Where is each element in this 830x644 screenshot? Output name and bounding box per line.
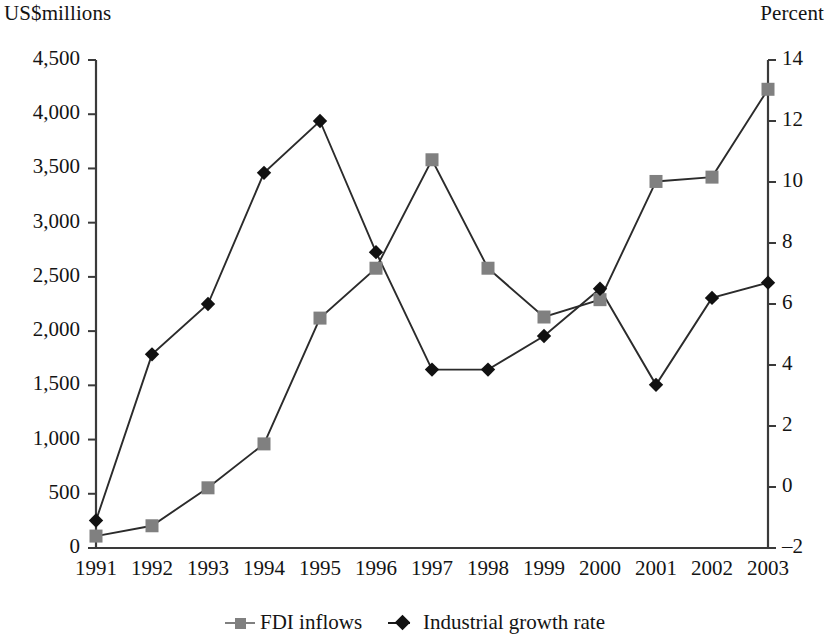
fdi-inflows-marker [90,530,103,543]
right-axis-tick-label: 10 [782,170,830,191]
right-axis-tick-label: 4 [782,353,830,374]
legend-marker-shape [395,614,411,630]
right-axis-tick-label: –2 [782,536,830,557]
right-axis-tick-label: 8 [782,231,830,252]
chart-figure: US$millions Percent 05001,0001,5002,0002… [0,0,830,644]
left-axis-tick-label: 4,500 [0,48,80,69]
left-axis-tick-label: 4,000 [0,102,80,123]
chart-legend: FDI inflowsIndustrial growth rate [0,612,830,633]
industrial-growth-rate-marker [761,275,775,289]
right-axis-tick-label: 0 [782,475,830,496]
x-axis-tick-label: 2003 [734,558,802,579]
fdi-inflows-marker [426,153,439,166]
left-axis-tick-label: 3,000 [0,211,80,232]
left-axis-tick-label: 1,000 [0,428,80,449]
left-axis-tick-label: 2,000 [0,319,80,340]
legend-item-fdi-inflows[interactable]: FDI inflows [225,612,362,633]
right-axis-tick-label: 12 [782,109,830,130]
fdi-inflows-marker [258,437,271,450]
left-axis-tick-label: 2,500 [0,265,80,286]
industrial-growth-rate-marker [425,362,439,376]
left-axis-tick-label: 0 [0,536,80,557]
fdi-inflows-marker [706,171,719,184]
industrial-growth-rate-marker [481,362,495,376]
fdi-inflows-marker [314,312,327,325]
fdi-inflows-marker [538,311,551,324]
right-axis-tick-label: 2 [782,414,830,435]
fdi-inflows-marker [650,175,663,188]
legend-diamond-marker-icon [388,614,418,632]
fdi-inflows-marker [202,481,215,494]
legend-item-label: FDI inflows [260,612,362,633]
left-axis-tick-label: 3,500 [0,156,80,177]
left-axis-tick-label: 1,500 [0,373,80,394]
legend-item-label: Industrial growth rate [423,612,605,633]
plot-area [0,0,830,644]
fdi-inflows-marker [482,262,495,275]
fdi-inflows-marker [370,262,383,275]
legend-marker-shape [235,618,246,629]
industrial-growth-rate-marker [649,378,663,392]
industrial-growth-rate-marker [89,513,103,527]
industrial-growth-rate-marker [705,291,719,305]
fdi-inflows-marker [762,83,775,96]
legend-square-marker-icon [225,614,255,632]
left-axis-tick-label: 500 [0,482,80,503]
right-axis-tick-label: 14 [782,48,830,69]
right-axis-tick-label: 6 [782,292,830,313]
fdi-inflows-marker [146,519,159,532]
legend-item-industrial-growth-rate[interactable]: Industrial growth rate [388,612,605,633]
